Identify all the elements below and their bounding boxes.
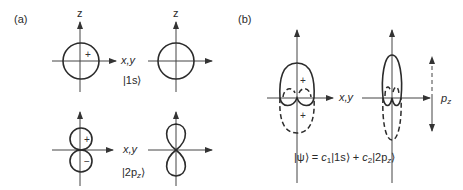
dashed-inner-left — [385, 87, 391, 96]
panel-a: (a) z + x,y |1s⟩ z + − x,y |2pz⟩ — [14, 7, 212, 186]
panel-b: (b) + + x,y — [238, 13, 451, 183]
dipole-label: pz — [440, 92, 451, 106]
hybrid-state-equation: |ψ⟩ = c1|1s⟩ + c2|2pz⟩ — [294, 151, 395, 165]
2pz-state-label: |2pz⟩ — [122, 166, 145, 180]
panel-b-label: (b) — [238, 13, 251, 25]
xy-axis-label: x,y — [122, 143, 139, 155]
z-axis-label: z — [77, 7, 83, 19]
dipole-moment-arrow: pz — [432, 57, 451, 131]
2pz-probability-plot — [148, 112, 212, 186]
plus-sign-lower: + — [300, 110, 306, 121]
xy-axis-label: x,y — [120, 54, 137, 66]
1s-wavefunction-plot: z + — [52, 7, 116, 92]
1s-state-label: |1s⟩ — [123, 74, 141, 86]
xy-axis-label: x,y — [338, 91, 355, 103]
dashed-inner-left — [283, 89, 295, 97]
dashed-inner-right — [393, 87, 399, 96]
2pz-wavefunction-plot: + − — [52, 112, 113, 186]
1s-probability-plot: z — [148, 7, 212, 92]
dashed-inner-right — [299, 89, 311, 97]
plus-sign: + — [84, 134, 90, 145]
plus-sign: + — [85, 49, 91, 60]
panel-a-label: (a) — [14, 13, 27, 25]
orbital-diagram: (a) z + x,y |1s⟩ z + − x,y |2pz⟩ — [0, 0, 463, 190]
z-axis-label: z — [173, 7, 179, 19]
minus-sign: − — [84, 156, 90, 167]
plus-sign-upper: + — [300, 75, 306, 86]
